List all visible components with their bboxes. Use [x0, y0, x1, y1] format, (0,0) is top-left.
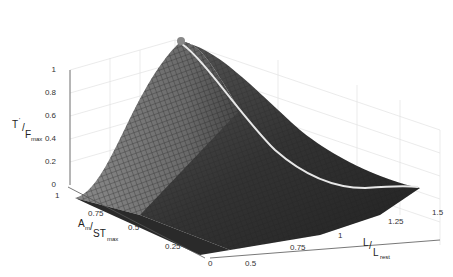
- svg-text:/: /: [369, 240, 372, 251]
- surface-plot: 1 0.8 0.6 0.4 0.2 0 1 0.75 0.5 0.25 0 0.…: [0, 0, 453, 277]
- svg-text:0.2: 0.2: [45, 157, 57, 166]
- peak-marker: [177, 37, 185, 45]
- svg-text:0.5: 0.5: [128, 223, 140, 232]
- svg-text:1.25: 1.25: [388, 217, 404, 226]
- svg-text:max: max: [107, 236, 118, 242]
- z-ticks: 1 0.8 0.6 0.4 0.2 0: [45, 65, 57, 189]
- svg-text:0.75: 0.75: [88, 209, 104, 218]
- svg-text:0.4: 0.4: [45, 134, 57, 143]
- x-axis-label: L / L rest: [363, 237, 390, 260]
- svg-text:': ': [19, 117, 20, 123]
- z-axis-label: T ' / F max: [12, 117, 42, 142]
- svg-text:max: max: [31, 136, 42, 142]
- svg-text:ST: ST: [93, 228, 106, 239]
- svg-text:A: A: [78, 218, 85, 229]
- svg-text:rest: rest: [380, 254, 390, 260]
- svg-text:0: 0: [52, 180, 57, 189]
- svg-text:1: 1: [338, 231, 343, 240]
- y-axis-label: A m / ST max: [78, 218, 118, 242]
- svg-text:1: 1: [55, 191, 60, 200]
- svg-text:0.75: 0.75: [290, 243, 306, 252]
- svg-text:0.5: 0.5: [245, 259, 257, 268]
- caption-text: ​: [0, 270, 453, 277]
- svg-text:1.5: 1.5: [432, 208, 444, 217]
- svg-text:0.8: 0.8: [45, 88, 57, 97]
- svg-text:T: T: [12, 119, 18, 130]
- svg-text:1: 1: [52, 65, 57, 74]
- svg-text:0.25: 0.25: [165, 242, 181, 251]
- svg-text:L: L: [373, 247, 379, 258]
- svg-text:0: 0: [208, 259, 213, 268]
- svg-text:0.6: 0.6: [45, 111, 57, 120]
- figure-caption-truncated: ​: [0, 270, 453, 277]
